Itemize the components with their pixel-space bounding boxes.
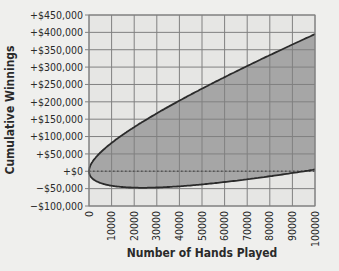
y-tick-label: −$50,000 bbox=[36, 182, 83, 194]
x-tick-label: 0 bbox=[83, 211, 95, 217]
y-tick-label: +$400,000 bbox=[30, 26, 83, 38]
x-tick-label: 100000 bbox=[309, 211, 321, 247]
x-tick-label: 40000 bbox=[173, 211, 185, 241]
x-tick-label: 10000 bbox=[105, 211, 117, 241]
x-tick-label: 20000 bbox=[128, 211, 140, 241]
x-tick-label: 30000 bbox=[150, 211, 162, 241]
y-axis-ticks: +$450,000+$400,000+$350,000+$300,000+$25… bbox=[30, 9, 83, 212]
y-tick-label: +$250,000 bbox=[30, 78, 83, 90]
y-tick-label: +$50,000 bbox=[36, 148, 83, 160]
x-axis-ticks: 0100002000030000400005000060000700008000… bbox=[83, 211, 321, 247]
y-tick-label: +$0 bbox=[63, 165, 83, 177]
y-tick-label: +$150,000 bbox=[30, 113, 83, 125]
y-tick-label: +$200,000 bbox=[30, 96, 83, 108]
y-tick-label: +$300,000 bbox=[30, 61, 83, 73]
y-axis-label: Cumulative Winnings bbox=[3, 45, 17, 174]
y-tick-label: −$100,000 bbox=[30, 200, 83, 212]
x-tick-label: 60000 bbox=[218, 211, 230, 241]
x-tick-label: 50000 bbox=[196, 211, 208, 241]
x-axis-label: Number of Hands Played bbox=[127, 246, 278, 260]
y-tick-label: +$450,000 bbox=[30, 9, 83, 21]
x-tick-label: 70000 bbox=[241, 211, 253, 241]
y-tick-label: +$350,000 bbox=[30, 44, 83, 56]
x-tick-label: 80000 bbox=[263, 211, 275, 241]
y-tick-label: +$100,000 bbox=[30, 130, 83, 142]
chart: +$450,000+$400,000+$350,000+$300,000+$25… bbox=[0, 0, 339, 271]
x-tick-label: 90000 bbox=[286, 211, 298, 241]
